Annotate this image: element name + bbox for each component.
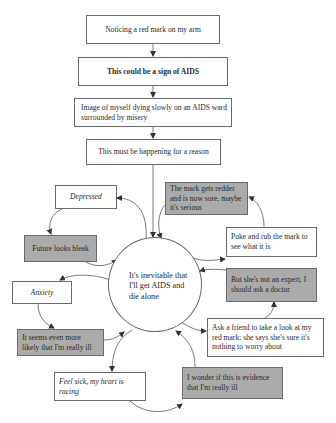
node-poke-rub-text: Poke and rub the mark to see what it is — [231, 232, 312, 251]
node-happening-reason-text: This must be happening for a reason — [98, 147, 209, 157]
node-sign-of-aids: This could be a sign of AIDS — [78, 57, 228, 86]
diagram-canvas: Noticing a red mark on my arm This could… — [0, 0, 336, 423]
node-not-expert-text: But she's not an expert, I should ask a … — [231, 275, 312, 294]
node-even-more-likely: It seems even more likely that I'm reall… — [17, 329, 104, 356]
node-future-bleak: Future looks bleak — [24, 235, 97, 262]
node-not-expert: But she's not an expert, I should ask a … — [226, 268, 317, 302]
node-wonder-evidence: I wonder if this is evidence that I'm re… — [182, 367, 283, 399]
node-feel-sick-text: Feel sick, my heart is racing — [59, 377, 141, 396]
node-depressed-text: Depressed — [70, 192, 102, 202]
node-anxiety-text: Anxiety — [31, 288, 54, 298]
node-depressed: Depressed — [55, 185, 117, 209]
node-core-belief: It's inevitable that I'll get AIDS and d… — [108, 237, 202, 332]
node-ask-friend-text: Ask a friend to take a look at my red ma… — [212, 323, 319, 352]
node-wonder-evidence-text: I wonder if this is evidence that I'm re… — [187, 373, 278, 392]
node-mark-redder-text: The mark gets redder and is now sore, ma… — [170, 184, 243, 213]
node-anxiety: Anxiety — [12, 281, 72, 304]
node-feel-sick: Feel sick, my heart is racing — [54, 372, 146, 401]
node-even-more-likely-text: It seems even more likely that I'm reall… — [22, 333, 99, 352]
node-noticing-text: Noticing a red mark on my arm — [105, 25, 201, 35]
node-future-bleak-text: Future looks bleak — [32, 244, 89, 254]
node-image-dying-text: Image of myself dying slowly on an AIDS … — [81, 103, 227, 122]
node-mark-redder: The mark gets redder and is now sore, ma… — [165, 182, 248, 215]
node-core-belief-text: It's inevitable that I'll get AIDS and d… — [129, 271, 191, 303]
node-ask-friend: Ask a friend to take a look at my red ma… — [207, 318, 324, 357]
node-happening-reason: This must be happening for a reason — [86, 139, 221, 165]
node-poke-rub: Poke and rub the mark to see what it is — [226, 227, 317, 257]
node-sign-of-aids-text: This could be a sign of AIDS — [107, 67, 199, 77]
node-noticing: Noticing a red mark on my arm — [86, 15, 220, 44]
node-image-dying: Image of myself dying slowly on an AIDS … — [74, 98, 232, 127]
